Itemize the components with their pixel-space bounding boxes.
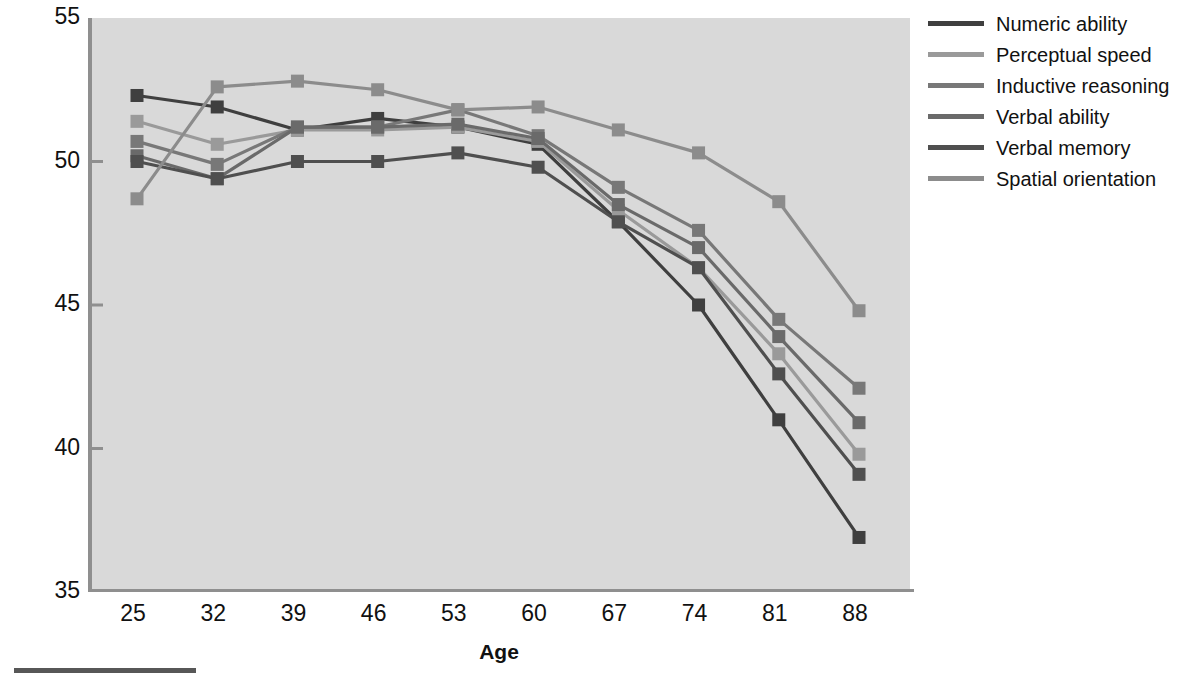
data-point-marker [371,121,384,134]
y-axis-tick-40: 40 [18,434,80,461]
legend-item-label: Spatial orientation [996,169,1156,189]
data-point-marker [853,531,866,544]
x-axis-tick-81: 81 [745,600,805,627]
legend-item-label: Perceptual speed [996,45,1152,65]
data-point-marker [371,83,384,96]
y-axis-tick-35: 35 [18,577,80,604]
x-axis-tick-88: 88 [825,600,885,627]
data-point-marker [692,299,705,312]
legend-item-label: Verbal memory [996,138,1131,158]
x-axis-tick-74: 74 [665,600,725,627]
x-axis-tick-46: 46 [344,600,404,627]
data-point-marker [131,192,144,205]
data-point-marker [853,448,866,461]
data-point-marker [772,313,785,326]
data-point-marker [692,224,705,237]
data-point-marker [772,330,785,343]
data-point-marker [131,135,144,148]
series-line [137,153,859,474]
data-point-marker [131,155,144,168]
legend-item-1[interactable]: Perceptual speed [928,39,1190,70]
data-point-marker [291,155,304,168]
y-axis-tick-50: 50 [18,147,80,174]
legend-line-swatch-icon [928,114,984,119]
legend-line-swatch-icon [928,83,984,88]
plot-area [88,18,910,592]
data-point-marker [692,241,705,254]
data-point-marker [291,121,304,134]
series-inductive-reasoning [131,103,866,394]
series-line [137,110,859,388]
data-point-marker [532,100,545,113]
x-axis-tick-25: 25 [103,600,163,627]
data-point-marker [772,347,785,360]
data-point-marker [772,195,785,208]
legend-item-3[interactable]: Verbal ability [928,101,1190,132]
legend-item-2[interactable]: Inductive reasoning [928,70,1190,101]
legend-line-swatch-icon [928,21,984,26]
data-point-marker [211,100,224,113]
series-numeric-ability [131,89,866,544]
data-point-marker [451,103,464,116]
x-axis-tick-labels: 25323946536067748188 [88,600,910,634]
y-axis-tick-labels: 5550454035 [8,0,80,620]
footer-rule [14,668,196,673]
data-point-marker [612,181,625,194]
x-axis-tick-53: 53 [424,600,484,627]
data-point-marker [853,468,866,481]
data-point-marker [692,146,705,159]
chart-legend: Numeric abilityPerceptual speedInductive… [928,8,1190,194]
data-point-marker [211,138,224,151]
plot-svg [92,18,914,592]
series-verbal-memory [131,146,866,480]
legend-item-label: Numeric ability [996,14,1127,34]
chart-figure: Mean t-scores 5550454035 253239465360677… [0,0,1198,684]
legend-line-swatch-icon [928,145,984,150]
x-axis-tick-39: 39 [263,600,323,627]
data-point-marker [211,158,224,171]
data-point-marker [371,155,384,168]
data-point-marker [532,132,545,145]
data-point-marker [772,367,785,380]
data-point-marker [211,172,224,185]
data-point-marker [211,80,224,93]
data-point-marker [612,198,625,211]
x-axis-title: Age [88,640,910,664]
data-point-marker [612,215,625,228]
data-point-marker [131,89,144,102]
x-axis-tick-32: 32 [183,600,243,627]
legend-item-0[interactable]: Numeric ability [928,8,1190,39]
y-axis-tick-45: 45 [18,290,80,317]
x-axis-tick-60: 60 [504,600,564,627]
data-point-marker [853,382,866,395]
data-point-marker [692,261,705,274]
data-point-marker [612,123,625,136]
series-perceptual-speed [131,115,866,461]
series-spatial-orientation [131,75,866,318]
legend-item-label: Inductive reasoning [996,76,1169,96]
legend-item-5[interactable]: Spatial orientation [928,163,1190,194]
legend-item-label: Verbal ability [996,107,1109,127]
data-point-marker [451,118,464,131]
series-verbal-ability [131,118,866,429]
data-point-marker [532,161,545,174]
y-axis-tick-55: 55 [18,3,80,30]
data-point-marker [772,413,785,426]
data-point-marker [853,416,866,429]
legend-line-swatch-icon [928,176,984,181]
data-point-marker [853,304,866,317]
data-point-marker [131,115,144,128]
x-axis-tick-67: 67 [584,600,644,627]
data-point-marker [451,146,464,159]
data-point-marker [291,75,304,88]
legend-item-4[interactable]: Verbal memory [928,132,1190,163]
legend-line-swatch-icon [928,52,984,57]
